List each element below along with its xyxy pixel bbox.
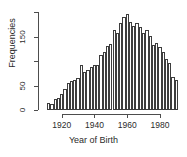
x-tick-1940 [94,114,95,118]
x-axis-line [62,114,160,115]
x-tick-label-1960: 1960 [112,120,142,130]
x-axis-label: Year of Birth [0,135,187,145]
x-tick-label-1980: 1980 [145,120,175,130]
x-tick-1980 [160,114,161,118]
x-tick-1920 [62,114,63,118]
x-tick-label-1940: 1940 [79,120,109,130]
histogram-bars [0,0,187,157]
x-tick-label-1920: 1920 [47,120,77,130]
x-tick-1960 [127,114,128,118]
histogram-bar [175,80,178,110]
histogram-plot: Frequencies 050150 1920194019601980 Year… [0,0,187,157]
